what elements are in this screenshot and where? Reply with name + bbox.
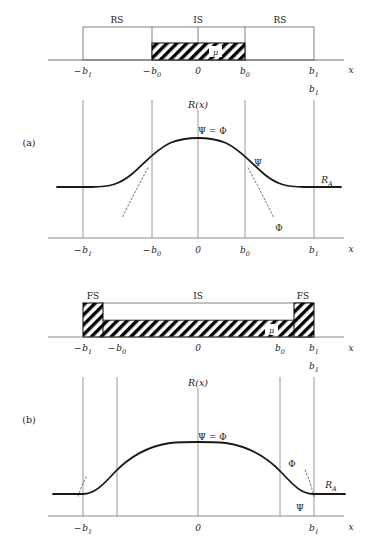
solid-curve-a	[57, 138, 341, 187]
peak-label-a: Ψ = Φ	[198, 126, 227, 136]
tick-a-band-neg-b1: −b1	[74, 66, 92, 79]
solid-curve-b	[53, 442, 345, 494]
asymptote-label-a: RA	[320, 175, 333, 188]
x-axis-label-b-plot: x	[348, 522, 353, 532]
dotted-branch-label-a: Φ	[275, 223, 282, 233]
tick-b-plot-b1: b1	[309, 523, 319, 536]
tick-labels-b-plot: −b1 0 b1	[74, 523, 319, 536]
tick-a-plot-b0: b0	[240, 245, 250, 258]
tick-labels-b-band: −b1 −b0 0 b0 b1	[74, 343, 319, 356]
tick-a-band-b0: b0	[240, 66, 250, 79]
figure-svg: μ RS IS RS x −b1 −b0 0 b0 b1	[0, 0, 366, 543]
region-label-b-fs-right: FS	[297, 291, 309, 301]
panel-b-band-diagram: μ FS IS FS x −b1 −b0 0 b0 b1	[48, 291, 354, 356]
figure-root: μ RS IS RS x −b1 −b0 0 b0 b1	[0, 0, 366, 543]
tick-b-band-b1: b1	[309, 343, 319, 356]
panel-a-band-diagram: μ RS IS RS x −b1 −b0 0 b0 b1	[48, 15, 354, 79]
tick-labels-a-plot: −b1 −b0 0 b0 b1	[74, 245, 319, 258]
top-right-label-a: b1	[309, 84, 319, 97]
dotted-curve-a-left	[122, 168, 148, 218]
dotted-branch-label-b: Ψ	[296, 503, 304, 513]
hatched-slab-b-middle	[101, 320, 313, 337]
tick-a-plot-neg-b0: −b0	[143, 245, 161, 258]
x-axis-label-b-band: x	[348, 343, 353, 353]
mu-label-b: μ	[269, 326, 274, 335]
region-label-a-rs-right: RS	[274, 15, 287, 25]
tick-b-band-neg-b1: −b1	[74, 343, 92, 356]
panel-a-plot: (a) b1 R(x) Ψ = Φ Ψ Φ RA x −	[22, 84, 353, 258]
region-label-b-fs-left: FS	[87, 291, 99, 301]
y-axis-label-a: R(x)	[187, 99, 208, 110]
tick-b-plot-neg-b1: −b1	[74, 523, 92, 536]
tick-a-plot-neg-b1: −b1	[74, 245, 92, 258]
panel-b-plot: (b) b1 R(x) Ψ = Φ Φ Ψ RA x −	[22, 361, 353, 536]
peak-label-b: Ψ = Φ	[198, 432, 227, 442]
asymptote-label-b: RA	[324, 480, 337, 493]
tick-labels-a-band: −b1 −b0 0 b0 b1	[74, 66, 319, 79]
region-label-a-rs-left: RS	[111, 15, 124, 25]
x-axis-label-a-band: x	[348, 65, 353, 75]
tick-b-band-zero: 0	[195, 343, 201, 353]
x-axis-label-a-plot: x	[348, 244, 353, 254]
hatched-slab-a	[152, 43, 245, 60]
y-axis-label-b: R(x)	[187, 377, 208, 388]
tick-b-plot-zero: 0	[195, 523, 201, 533]
solid-branch-label-b: Φ	[288, 459, 295, 469]
solid-branch-label-a: Ψ	[254, 158, 262, 168]
hatched-block-b-fs-right	[294, 303, 314, 337]
tick-b-band-neg-b0: −b0	[108, 343, 126, 356]
panel-label-a: (a)	[22, 137, 35, 148]
tick-a-band-neg-b0: −b0	[143, 66, 161, 79]
region-label-a-is: IS	[193, 15, 203, 25]
mu-label-a: μ	[213, 48, 218, 57]
is-cavity-b	[101, 303, 313, 320]
tick-a-plot-b1: b1	[309, 245, 319, 258]
tick-b-band-b0: b0	[275, 343, 285, 356]
dotted-curve-a-right	[248, 168, 274, 218]
panel-label-b: (b)	[22, 414, 36, 425]
hatched-block-b-fs-left	[83, 303, 103, 337]
tick-a-plot-zero: 0	[195, 245, 201, 255]
tick-a-band-zero: 0	[195, 66, 201, 76]
tick-a-band-b1: b1	[309, 66, 319, 79]
top-right-label-b: b1	[309, 361, 319, 374]
region-label-b-is: IS	[193, 291, 203, 301]
